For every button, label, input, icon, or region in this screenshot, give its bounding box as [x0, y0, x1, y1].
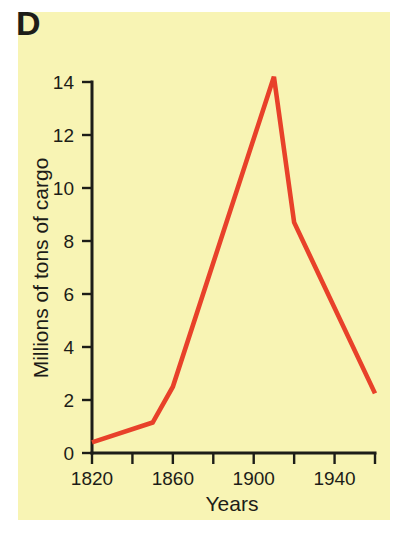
- y-axis: 02468101214: [53, 72, 92, 464]
- y-tick-label: 0: [63, 443, 74, 464]
- y-tick-label: 4: [63, 337, 74, 358]
- x-axis: 1820186019001940: [71, 453, 375, 489]
- y-tick-label: 12: [53, 125, 74, 146]
- x-axis-title: Years: [206, 492, 259, 515]
- x-tick-label: 1820: [71, 468, 113, 489]
- y-tick-label: 2: [63, 390, 74, 411]
- y-axis-tick-labels: 02468101214: [53, 72, 75, 464]
- x-axis-ticks: [92, 453, 375, 464]
- data-line-cargo: [92, 77, 375, 443]
- y-tick-label: 14: [53, 72, 75, 93]
- figure-root: D 02468101214 1820186019001940 Years Mil…: [0, 0, 406, 536]
- x-tick-label: 1860: [152, 468, 194, 489]
- x-axis-tick-labels: 1820186019001940: [71, 468, 356, 489]
- x-tick-label: 1940: [313, 468, 355, 489]
- y-tick-label: 6: [63, 284, 74, 305]
- data-series-group: [92, 77, 375, 443]
- y-tick-label: 8: [63, 231, 74, 252]
- y-tick-label: 10: [53, 178, 74, 199]
- y-axis-title: Millions of tons of cargo: [29, 158, 52, 379]
- x-tick-label: 1900: [233, 468, 275, 489]
- line-chart: 02468101214 1820186019001940 Years Milli…: [0, 0, 406, 536]
